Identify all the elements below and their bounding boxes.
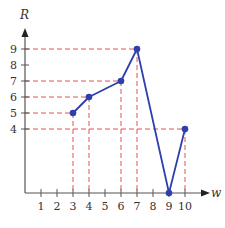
x-tick-label: 8	[150, 200, 157, 213]
x-tick-label: 5	[102, 200, 109, 213]
y-tick-label: 4	[10, 123, 17, 136]
y-tick-label: 7	[10, 75, 17, 88]
data-point	[166, 190, 173, 197]
y-tick-label: 6	[10, 91, 17, 104]
y-axis-label: R	[19, 8, 29, 22]
x-tick-label: 4	[86, 200, 93, 213]
y-tick-label: 5	[10, 107, 17, 120]
line-chart: 12345678910456789 w R	[0, 0, 225, 228]
series-line	[73, 49, 185, 193]
x-tick-label: 3	[70, 200, 77, 213]
data-point	[118, 78, 125, 85]
guide-lines	[25, 49, 185, 193]
series	[70, 46, 189, 197]
ticks: 12345678910456789	[10, 43, 192, 213]
x-tick-label: 2	[54, 200, 61, 213]
x-tick-label: 7	[134, 200, 141, 213]
y-tick-label: 9	[10, 43, 17, 56]
axes	[22, 28, 211, 197]
y-tick-label: 8	[10, 59, 17, 72]
x-tick-label: 1	[38, 200, 45, 213]
data-point	[182, 126, 189, 133]
y-axis-arrow	[22, 28, 29, 37]
data-point	[134, 46, 141, 53]
x-axis-label: w	[211, 186, 222, 200]
x-axis-arrow	[201, 190, 210, 197]
x-tick-label: 9	[166, 200, 173, 213]
x-tick-label: 6	[118, 200, 125, 213]
data-point	[70, 110, 77, 117]
data-point	[86, 94, 93, 101]
x-tick-label: 10	[178, 200, 192, 213]
